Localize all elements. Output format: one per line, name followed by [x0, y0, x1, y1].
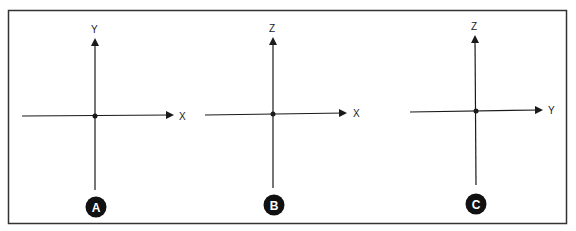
panel-a: Y X A — [22, 24, 186, 218]
horizontal-axis-label: X — [353, 108, 360, 119]
origin-point — [474, 109, 479, 114]
horizontal-axis-label: Y — [548, 105, 555, 116]
coordinate-planes-diagram: Y X A Z X B Z Y C — [0, 0, 576, 231]
vertical-axis-label: Z — [269, 23, 275, 34]
panel-badge-label: B — [270, 199, 279, 213]
panel-badge-label: A — [92, 201, 101, 215]
origin-point — [93, 114, 98, 119]
panel-badge-label: C — [472, 198, 481, 212]
panel-c: Z Y C — [410, 21, 555, 215]
vertical-axis-label: Z — [471, 21, 477, 32]
figure-border — [9, 11, 567, 224]
panel-b: Z X B — [205, 23, 360, 216]
vertical-axis-label: Y — [91, 24, 98, 35]
horizontal-axis-label: X — [179, 111, 186, 122]
origin-point — [271, 112, 276, 117]
